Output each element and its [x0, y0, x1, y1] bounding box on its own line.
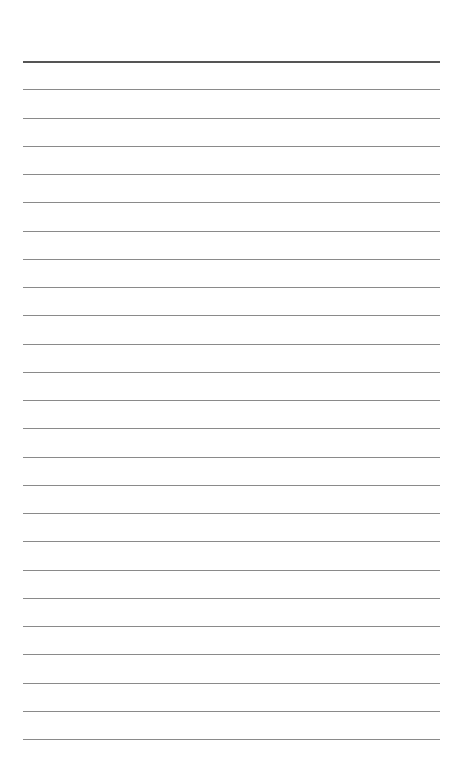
rule-segment-right	[297, 400, 440, 401]
rule-line	[23, 287, 440, 288]
rule-segment-left	[23, 146, 297, 147]
rule-segment-left	[23, 315, 297, 316]
rule-segment-left	[23, 598, 297, 599]
rule-segment-right	[297, 174, 440, 175]
rule-line	[23, 598, 440, 599]
rule-line	[23, 202, 440, 203]
rule-segment-left	[23, 372, 297, 373]
rule-segment-left	[23, 513, 297, 514]
rule-line	[23, 315, 440, 316]
rule-segment-right	[297, 457, 440, 458]
rule-segment-right	[297, 598, 440, 599]
rule-segment-left	[23, 428, 297, 429]
rule-segment-right	[297, 541, 440, 542]
rule-line	[23, 457, 440, 458]
rule-segment-right	[297, 711, 440, 712]
rule-line	[23, 372, 440, 373]
rule-segment-right	[297, 739, 440, 740]
header-rule-line	[23, 61, 440, 62]
rule-line	[23, 146, 440, 147]
rule-line	[23, 174, 440, 175]
rule-segment-left	[23, 739, 297, 740]
rule-segment-left	[23, 259, 297, 260]
rule-segment-right	[297, 428, 440, 429]
rule-segment-left	[23, 541, 297, 542]
rule-segment-right	[297, 231, 440, 232]
rule-segment-right	[297, 202, 440, 203]
rule-segment-left	[23, 118, 297, 119]
rule-segment-right	[297, 315, 440, 316]
rule-line	[23, 344, 440, 345]
rule-segment-left	[23, 626, 297, 627]
rule-line	[23, 89, 440, 90]
rule-segment-left	[23, 344, 297, 345]
lined-sheet	[0, 0, 460, 781]
rule-segment-right	[297, 485, 440, 486]
rule-segment-left	[23, 457, 297, 458]
rule-line	[23, 118, 440, 119]
rule-segment-left	[23, 231, 297, 232]
rule-segment-right	[297, 89, 440, 90]
rule-segment-right	[297, 287, 440, 288]
rule-line	[23, 485, 440, 486]
rule-line	[23, 513, 440, 514]
rule-segment-left	[23, 89, 297, 90]
rule-line	[23, 683, 440, 684]
rule-segment-left	[23, 400, 297, 401]
rule-segment-right	[297, 626, 440, 627]
rule-segment-right	[297, 654, 440, 655]
rule-segment-right	[297, 259, 440, 260]
rule-segment-right	[297, 61, 440, 63]
rule-line	[23, 259, 440, 260]
rule-segment-left	[23, 485, 297, 486]
rule-segment-left	[23, 202, 297, 203]
rule-line	[23, 739, 440, 740]
rule-line	[23, 570, 440, 571]
rule-line	[23, 711, 440, 712]
rule-segment-right	[297, 118, 440, 119]
rule-segment-right	[297, 372, 440, 373]
rule-segment-left	[23, 654, 297, 655]
rule-line	[23, 400, 440, 401]
rule-segment-right	[297, 683, 440, 684]
rule-segment-left	[23, 683, 297, 684]
rule-segment-right	[297, 344, 440, 345]
rule-line	[23, 231, 440, 232]
rule-line	[23, 428, 440, 429]
rule-line	[23, 541, 440, 542]
rule-segment-left	[23, 174, 297, 175]
rule-segment-left	[23, 570, 297, 571]
rule-segment-right	[297, 513, 440, 514]
rule-line	[23, 626, 440, 627]
rule-segment-left	[23, 287, 297, 288]
rule-line	[23, 654, 440, 655]
rule-segment-left	[23, 711, 297, 712]
rule-segment-right	[297, 146, 440, 147]
rule-segment-right	[297, 570, 440, 571]
rule-segment-left	[23, 61, 297, 63]
